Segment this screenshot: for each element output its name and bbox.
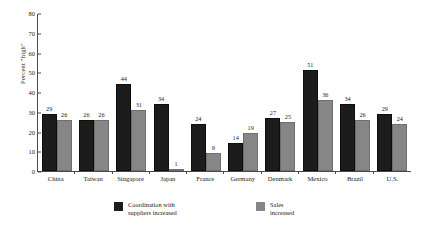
bar-value-label: 34 <box>158 96 164 102</box>
bar-value-label: 26 <box>98 112 104 118</box>
legend-item-coordination: Coordination withsuppliers increased <box>114 201 177 216</box>
bar: 29 <box>377 114 392 171</box>
bar-group: 1419 <box>224 14 261 171</box>
bar-value-label: 24 <box>195 116 201 122</box>
bar: 51 <box>303 70 318 171</box>
y-tick-mark <box>38 172 41 173</box>
y-tick-label: 80 <box>22 11 35 18</box>
bar: 34 <box>340 104 355 171</box>
bar-group: 249 <box>187 14 224 171</box>
bar-value-label: 31 <box>136 102 142 108</box>
bar: 29 <box>42 114 57 171</box>
bar-value-label: 34 <box>344 96 350 102</box>
bar-value-label: 19 <box>248 125 254 131</box>
chart-legend: Coordination withsuppliers increased Sal… <box>0 201 421 231</box>
legend-label-coordination: Coordination withsuppliers increased <box>128 201 177 216</box>
x-axis-labels: ChinaTaiwanSingaporeJapanFranceGermanyDe… <box>37 176 411 183</box>
bar-value-label: 27 <box>270 110 276 116</box>
y-tick-label: 40 <box>22 90 35 97</box>
bar: 24 <box>392 124 407 171</box>
bar-value-label: 26 <box>61 112 67 118</box>
x-tick-mark <box>186 171 187 174</box>
bar-value-label: 1 <box>174 161 177 167</box>
bar-group: 5136 <box>299 14 336 171</box>
x-axis-category-label: Denmark <box>261 176 298 183</box>
bar: 36 <box>318 100 333 171</box>
y-tick-label: 60 <box>22 50 35 57</box>
x-tick-mark <box>298 171 299 174</box>
bar: 26 <box>355 120 370 171</box>
bar-value-label: 51 <box>307 62 313 68</box>
bar-group: 2926 <box>38 14 75 171</box>
x-axis-category-label: Japan <box>149 176 186 183</box>
bar-value-label: 14 <box>233 135 239 141</box>
x-tick-mark <box>149 171 150 174</box>
legend-swatch-gray-icon <box>256 202 265 211</box>
bar-value-label: 9 <box>212 145 215 151</box>
bar-value-label: 24 <box>397 116 403 122</box>
bar: 26 <box>79 120 94 171</box>
x-tick-mark <box>261 171 262 174</box>
x-tick-mark <box>335 171 336 174</box>
bar: 26 <box>57 120 72 171</box>
bar-group: 2626 <box>75 14 112 171</box>
x-axis-category-label: Singapore <box>112 176 149 183</box>
bar: 34 <box>154 104 169 171</box>
bar-group: 4431 <box>113 14 150 171</box>
bar: 27 <box>265 118 280 171</box>
x-axis-category-label: Mexico <box>299 176 336 183</box>
bar: 44 <box>116 84 131 171</box>
bar: 19 <box>243 133 258 171</box>
bar-group: 3426 <box>336 14 373 171</box>
bar: 14 <box>228 143 243 171</box>
bar-value-label: 26 <box>359 112 365 118</box>
x-tick-mark <box>74 171 75 174</box>
bar-group: 341 <box>150 14 187 171</box>
bar-value-label: 29 <box>46 106 52 112</box>
bar-value-label: 36 <box>322 92 328 98</box>
bar-value-label: 29 <box>382 106 388 112</box>
legend-swatch-dark-icon <box>114 202 123 211</box>
x-axis-category-label: Brazil <box>336 176 373 183</box>
x-tick-mark <box>112 171 113 174</box>
x-tick-mark <box>223 171 224 174</box>
x-axis-category-label: China <box>37 176 74 183</box>
y-tick-label: 30 <box>22 110 35 117</box>
bar: 24 <box>191 124 206 171</box>
bar: 25 <box>280 122 295 171</box>
bar-group: 2725 <box>262 14 299 171</box>
bar: 9 <box>206 153 221 171</box>
bar-groups: 29262626443134124914192725513634262924 <box>38 14 411 171</box>
bar-value-label: 26 <box>83 112 89 118</box>
plot-area: 01020304050607080 2926262644313412491419… <box>37 14 411 172</box>
y-axis-title: Percent "high" <box>19 14 26 114</box>
x-tick-mark <box>373 171 374 174</box>
x-axis-category-label: France <box>187 176 224 183</box>
x-axis-category-label: Germany <box>224 176 261 183</box>
y-tick-label: 70 <box>22 31 35 38</box>
y-tick-label: 10 <box>22 149 35 156</box>
bar-value-label: 44 <box>121 76 127 82</box>
x-axis-category-label: U.S. <box>374 176 411 183</box>
y-tick-label: 50 <box>22 70 35 77</box>
bar: 1 <box>169 169 184 171</box>
y-tick-label: 20 <box>22 129 35 136</box>
bar-chart: Percent "high" 01020304050607080 2926262… <box>0 0 421 233</box>
bar: 31 <box>131 110 146 171</box>
bar: 26 <box>94 120 109 171</box>
bar-group: 2924 <box>374 14 411 171</box>
bar-value-label: 25 <box>285 114 291 120</box>
legend-label-sales: Salesincreased <box>270 201 294 216</box>
legend-item-sales: Salesincreased <box>256 201 294 216</box>
y-tick-label: 0 <box>22 169 35 176</box>
x-axis-category-label: Taiwan <box>74 176 111 183</box>
